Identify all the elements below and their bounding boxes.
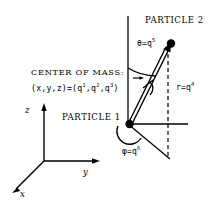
r-vector-stroke-right (132, 47, 170, 124)
com-coords-lhs: (x,y,z)=(q (31, 83, 82, 93)
phi-superscript: 6 (137, 145, 140, 151)
phi-angle-arc (117, 126, 141, 144)
com-coords-mid-2: ,q (100, 83, 110, 93)
radius-label: r=q4 (176, 84, 195, 92)
azimuth-construction-lines (128, 47, 170, 159)
theta-symbol: θ=q (137, 39, 152, 48)
x-axis-line (16, 161, 44, 189)
com-coords-mid-1: ,q (86, 83, 96, 93)
x-axis-label: x (20, 190, 25, 199)
z-axis-label: z (25, 106, 30, 115)
theta-superscript: 5 (152, 37, 155, 43)
particle-1-label: PARTICLE 1 (62, 113, 121, 122)
theta-angle-label: θ=q5 (137, 40, 156, 48)
particle-1-dot (125, 120, 133, 128)
center-of-mass-pointer-arrow (133, 76, 144, 80)
diagram-canvas (0, 0, 219, 211)
radius-superscript: 4 (191, 81, 194, 87)
particle-2-label: PARTICLE 2 (145, 16, 204, 25)
center-of-mass-brace (150, 82, 153, 95)
particle-2-dot (167, 39, 175, 47)
phi-symbol: φ=q (122, 147, 137, 156)
phi-angle-label: φ=q6 (122, 148, 141, 156)
radius-symbol: r=q (176, 83, 191, 92)
physics-diagram-figure: PARTICLE 2 PARTICLE 1 CENTER OF MASS: (x… (0, 0, 219, 211)
com-coords-rhs: ) (114, 83, 119, 93)
center-of-mass-title-label: CENTER OF MASS: (31, 68, 124, 77)
center-of-mass-coords-label: (x,y,z)=(q1,q2,q3) (31, 84, 119, 93)
y-axis-arrowhead (92, 158, 100, 163)
y-axis-label: y (83, 168, 88, 177)
separation-vector-r (128, 47, 170, 124)
z-axis-arrowhead (41, 103, 46, 111)
com-pointer-arrowhead (140, 76, 145, 80)
